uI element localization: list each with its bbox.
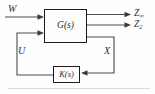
arrowhead-right-icon <box>125 22 132 27</box>
w-input-arrow <box>5 14 44 19</box>
signal-label-x: X <box>104 46 110 56</box>
arrowhead-left-icon <box>81 70 88 75</box>
z-inf-subscript: ∞ <box>139 12 144 19</box>
controller-block: K(s) <box>53 66 80 83</box>
z2-subscript: 2 <box>139 23 142 30</box>
z2-output-arrow <box>87 22 131 27</box>
arrowhead-right-icon <box>125 12 132 17</box>
plant-block-label: G(s) <box>57 21 74 31</box>
signal-label-w: W <box>8 4 16 14</box>
plant-block: G(s) <box>44 9 87 43</box>
signal-label-z-infinity: Z∞ <box>134 8 144 20</box>
z-inf-output-arrow <box>87 12 131 17</box>
block-diagram: G(s) K(s) W U X Z∞ Z2 <box>0 0 155 94</box>
signal-label-u: U <box>18 46 25 56</box>
controller-block-label: K(s) <box>59 70 74 79</box>
signal-label-z-2: Z2 <box>134 19 143 31</box>
